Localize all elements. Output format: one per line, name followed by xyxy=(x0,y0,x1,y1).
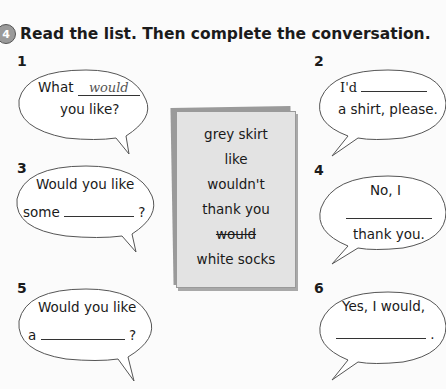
word-list: grey skirt like wouldn't thank you would… xyxy=(176,111,296,288)
speech-bubble-6: Yes, I would, . xyxy=(318,290,446,380)
bubble-6-line1: Yes, I would, xyxy=(342,298,425,314)
answer-blank[interactable] xyxy=(361,91,427,92)
answer-blank[interactable] xyxy=(346,218,432,219)
bubble-5-line1: Would you like xyxy=(38,299,136,315)
text: What xyxy=(38,79,73,95)
bubble-6-line2: . xyxy=(336,326,435,342)
word-list-item: like xyxy=(224,147,247,172)
answer-blank[interactable]: would xyxy=(78,79,140,96)
word-list-item-crossed: would xyxy=(216,222,256,247)
instruction-text: Read the list. Then complete the convers… xyxy=(20,25,431,43)
bubble-2-line2: a shirt, please. xyxy=(338,101,438,117)
example-answer: would xyxy=(89,80,129,95)
bubble-5-line2: a ? xyxy=(28,327,136,343)
text: ? xyxy=(129,327,136,343)
answer-blank[interactable] xyxy=(41,339,125,340)
bubble-3-line1: Would you like xyxy=(36,176,134,192)
exercise-title: 4 Read the list. Then complete the conve… xyxy=(0,24,431,44)
speech-bubble-3: Would you like some ? xyxy=(14,164,154,254)
word-list-item: thank you xyxy=(202,197,270,222)
bubble-4-line3: thank you. xyxy=(353,226,425,242)
word-list-card: grey skirt like wouldn't thank you would… xyxy=(176,111,298,288)
bubble-1-line1: What would xyxy=(38,79,140,96)
speech-bubble-1: What would you like? xyxy=(16,68,146,158)
text: . xyxy=(430,326,434,342)
bubble-1-line2: you like? xyxy=(60,101,119,117)
text: a xyxy=(28,327,36,343)
answer-blank[interactable] xyxy=(64,216,134,217)
question-number: 2 xyxy=(314,53,324,69)
text: I'd xyxy=(340,80,357,95)
word-list-item: grey skirt xyxy=(204,122,268,147)
bubble-3-line2: some ? xyxy=(23,204,146,220)
text: ? xyxy=(138,204,145,220)
bubble-2-line1: I'd xyxy=(340,79,427,95)
speech-bubble-4: No, I thank you. xyxy=(318,174,446,264)
answer-blank[interactable] xyxy=(336,338,426,339)
question-number: 1 xyxy=(17,53,27,69)
bubble-4-line1: No, I xyxy=(370,182,401,198)
word-list-item: wouldn't xyxy=(207,172,265,197)
speech-bubble-5: Would you like a ? xyxy=(16,287,152,377)
text: some xyxy=(23,204,60,220)
exercise-number-badge: 4 xyxy=(0,24,16,44)
speech-bubble-2: I'd a shirt, please. xyxy=(318,68,446,158)
word-list-item: white socks xyxy=(197,247,276,272)
